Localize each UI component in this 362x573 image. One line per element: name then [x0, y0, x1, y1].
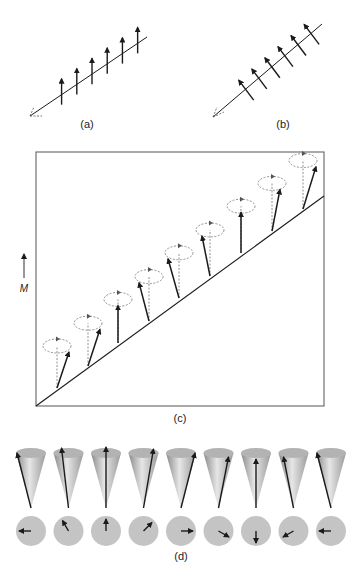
orbit-direction-icon	[117, 290, 121, 295]
cone-body	[279, 453, 309, 508]
precessing-spin	[289, 151, 317, 209]
precessing-spin	[165, 243, 193, 298]
cone-top	[241, 448, 271, 458]
spin-arrow	[291, 35, 306, 55]
cone-top	[204, 448, 234, 458]
cone-top	[16, 448, 46, 458]
spin-arrow	[239, 80, 254, 100]
cone-top	[54, 448, 84, 458]
spin-arrow	[278, 47, 293, 67]
spin-arrow	[202, 236, 210, 276]
orbit-direction-icon	[87, 314, 91, 319]
orbit-direction-icon	[271, 174, 275, 179]
panel-c-frame	[36, 152, 324, 406]
figure-canvas: (a) (b) M (c) (d)	[0, 0, 362, 573]
panel-c: M (c)	[20, 151, 324, 424]
spin-arrow	[139, 283, 149, 321]
panel-label-a: (a)	[80, 118, 93, 130]
cone-spin	[241, 448, 271, 546]
orbit-direction-icon	[56, 337, 60, 342]
orbit-direction-icon	[240, 197, 244, 202]
panel-b: (b)	[213, 24, 322, 130]
cone-spin	[316, 448, 346, 546]
magnetization-label: M	[20, 283, 29, 294]
precessing-spin	[135, 267, 163, 321]
cone-body	[166, 453, 196, 508]
cone-body	[316, 453, 346, 508]
precessing-spin	[258, 174, 286, 231]
orbit-direction-icon	[209, 221, 213, 226]
chain-axis	[30, 37, 147, 116]
precessing-spin	[104, 290, 132, 343]
spin-arrow	[252, 69, 267, 89]
cone-spin	[91, 447, 121, 546]
precessing-spin	[74, 314, 102, 366]
panel-a: (a)	[30, 27, 147, 130]
orbit-direction-icon	[148, 267, 152, 272]
cone-body	[16, 453, 46, 508]
cone-spin	[54, 448, 84, 546]
panel-label-c: (c)	[174, 412, 187, 424]
precessing-spin	[196, 221, 224, 277]
spin-arrow	[304, 24, 319, 44]
chain-axis	[213, 24, 322, 117]
panel-label-b: (b)	[276, 118, 289, 130]
panel-label-d: (d)	[174, 550, 187, 562]
spin-arrow	[272, 189, 280, 231]
cone-spin	[16, 448, 46, 546]
cone-top	[279, 448, 309, 458]
spin-arrow	[168, 259, 179, 298]
cone-spin	[279, 448, 309, 546]
magnetization-axis-indicator: M	[20, 254, 29, 294]
orbit-direction-icon	[178, 243, 182, 248]
precessing-spin	[43, 337, 71, 389]
panel-d: (d)	[16, 447, 346, 562]
chain-axis	[36, 196, 324, 406]
spin-arrow	[265, 58, 280, 78]
precessing-spin	[227, 197, 255, 253]
cone-body	[204, 453, 234, 508]
cone-top	[166, 448, 196, 458]
cone-body	[54, 453, 84, 508]
cone-spin	[204, 448, 234, 546]
cone-spin	[129, 448, 159, 546]
cone-body	[129, 453, 159, 508]
cone-spin	[166, 448, 196, 546]
cone-top	[316, 448, 346, 458]
